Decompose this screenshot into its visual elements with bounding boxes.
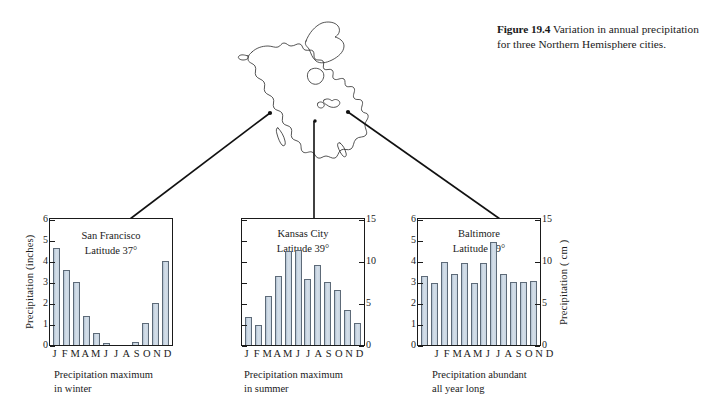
y-axis-ticks-right-kc: 051015 [365, 218, 380, 346]
bar [471, 283, 478, 345]
panel-caption-baltimore: Precipitation abundant all year long [432, 368, 572, 396]
x-axis-month-label: J [50, 348, 59, 359]
x-axis-month-label: A [314, 348, 323, 359]
bar-series-san-francisco [53, 219, 169, 345]
y-axis-title-left-sf: Precipitation (inches) [22, 218, 36, 346]
axis-tick-mark [418, 241, 423, 242]
panel-caption-sf: Precipitation maximum in winter [54, 368, 184, 396]
bar [255, 325, 262, 345]
bar [500, 274, 507, 345]
axis-tick-label: 3 [43, 277, 48, 287]
x-axis-month-label: D [355, 348, 364, 359]
axis-tick-label: 5 [366, 298, 371, 308]
x-axis-month-label: J [483, 348, 492, 359]
axis-tick-mark [242, 346, 247, 347]
axis-tick-mark [50, 304, 55, 305]
axis-tick-label: 1 [43, 319, 48, 329]
panel-caption-kc-line2: in summer [244, 382, 374, 396]
x-axis-month-label: S [324, 348, 333, 359]
map-outline-icon [232, 8, 422, 168]
axis-tick-label: 6 [411, 214, 416, 224]
axis-tick-mark [535, 346, 540, 347]
axis-tick-label: 0 [43, 340, 48, 350]
axis-tick-label: 15 [542, 214, 552, 224]
axis-tick-mark [242, 241, 247, 242]
bar [520, 282, 527, 345]
x-axis-labels-kc: JFMAMJJASOND [241, 346, 365, 359]
x-axis-month-label: M [453, 348, 462, 359]
axis-tick-label: 0 [366, 340, 371, 350]
bar [344, 310, 351, 345]
x-axis-month-label: A [273, 348, 282, 359]
city-dot-kansas-city [313, 119, 316, 122]
x-axis-labels-sf: JFMAMJJASOND [49, 346, 173, 359]
x-axis-month-label: A [122, 348, 131, 359]
x-axis-month-label: N [345, 348, 354, 359]
axis-tick-label: 10 [542, 256, 552, 266]
axis-tick-mark [359, 304, 364, 305]
bar [530, 281, 537, 345]
x-axis-month-label: O [524, 348, 533, 359]
x-axis-month-label: M [91, 348, 100, 359]
axis-tick-mark [242, 262, 247, 263]
bar [63, 270, 70, 345]
axis-tick-mark [50, 325, 55, 326]
axis-tick-mark [418, 325, 423, 326]
axis-tick-label: 0 [411, 340, 416, 350]
panel-caption-sf-line1: Precipitation maximum [54, 368, 184, 382]
axis-tick-mark [359, 346, 364, 347]
axis-tick-mark [242, 283, 247, 284]
axis-tick-mark [50, 262, 55, 263]
axis-tick-label: 3 [411, 277, 416, 287]
bar [431, 283, 438, 345]
x-axis-month-label: J [242, 348, 251, 359]
axis-tick-label: 2 [411, 298, 416, 308]
plot-area-baltimore: Baltimore Latitude 39° [417, 218, 541, 346]
axis-tick-mark [242, 304, 247, 305]
x-axis-month-label: M [263, 348, 272, 359]
axis-tick-mark [359, 220, 364, 221]
axis-tick-mark [535, 304, 540, 305]
axis-tick-label: 0 [542, 340, 547, 350]
bar [304, 279, 311, 345]
bar [152, 303, 159, 345]
bar [245, 317, 252, 345]
x-axis-month-label: D [163, 348, 172, 359]
axis-tick-label: 1 [411, 319, 416, 329]
axis-tick-mark [418, 283, 423, 284]
axis-tick-mark [50, 283, 55, 284]
x-axis-month-label: M [71, 348, 80, 359]
x-axis-month-label: M [283, 348, 292, 359]
axis-tick-label: 5 [411, 235, 416, 245]
bar-series-baltimore [421, 219, 537, 345]
y-axis-ticks-left-baltimore: 0123456 [404, 218, 417, 346]
y-axis-ticks-left-kc [228, 218, 241, 346]
x-axis-month-label: N [153, 348, 162, 359]
panel-caption-kc: Precipitation maximum in summer [244, 368, 374, 396]
bar [490, 242, 497, 345]
axis-tick-mark [535, 220, 540, 221]
axis-tick-mark [418, 346, 423, 347]
bar [132, 342, 139, 345]
bar [275, 276, 282, 345]
bar [73, 282, 80, 345]
x-axis-month-label: O [334, 348, 343, 359]
bar [334, 290, 341, 345]
axis-tick-mark [418, 304, 423, 305]
bar [103, 343, 110, 345]
x-axis-month-label: J [432, 348, 441, 359]
axis-tick-mark [50, 220, 55, 221]
axis-tick-label: 5 [542, 298, 547, 308]
axis-tick-label: 4 [411, 256, 416, 266]
bar [421, 276, 428, 345]
bar [285, 251, 292, 345]
x-axis-month-label: J [304, 348, 313, 359]
axis-tick-label: 2 [43, 298, 48, 308]
axis-tick-label: 4 [43, 256, 48, 266]
bar [461, 263, 468, 345]
bar [441, 262, 448, 345]
bar [314, 265, 321, 345]
bar [142, 323, 149, 345]
bar [451, 274, 458, 345]
axis-tick-label: 6 [43, 214, 48, 224]
